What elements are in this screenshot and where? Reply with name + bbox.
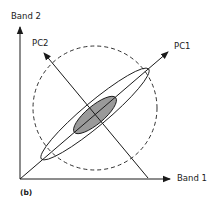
pc1-label: PC1: [174, 41, 190, 51]
pc2-label: PC2: [32, 38, 48, 48]
band2-label: Band 2: [11, 11, 41, 21]
band1-label: Band 1: [177, 173, 207, 183]
panel-label: (b): [20, 188, 32, 197]
pc1-arrow: [20, 52, 168, 179]
